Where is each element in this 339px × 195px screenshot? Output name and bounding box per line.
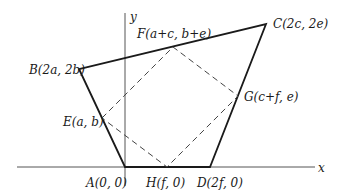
point-label-g: G(c+f, e) xyxy=(244,90,299,104)
point-label-a: A(0, 0) xyxy=(85,176,127,190)
x-axis-label: x xyxy=(318,161,325,175)
point-label-e: E(a, b) xyxy=(62,115,104,129)
y-axis-label: y xyxy=(129,10,137,24)
point-label-f: F(a+c, b+e) xyxy=(136,27,211,41)
diagram-canvas: y x A(0, 0) B(2a, 2b) C(2c, 2e) D(2f, 0)… xyxy=(0,0,339,195)
point-label-h: H(f, 0) xyxy=(145,176,185,190)
point-label-c: C(2c, 2e) xyxy=(273,17,329,31)
point-label-b: B(2a, 2b) xyxy=(28,63,85,77)
point-label-d: D(2f, 0) xyxy=(196,176,243,190)
quadrilateral-midpoints-diagram: y x A(0, 0) B(2a, 2b) C(2c, 2e) D(2f, 0)… xyxy=(0,0,339,195)
